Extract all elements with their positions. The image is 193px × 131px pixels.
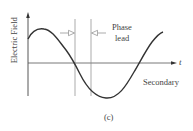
secondary-waveform xyxy=(28,29,163,98)
annotation-lead: lead xyxy=(115,34,129,43)
phase-arrow-left-icon xyxy=(69,30,75,35)
x-axis-arrow-icon xyxy=(171,61,177,65)
y-axis-label: Electric Field xyxy=(10,10,19,70)
annotation-phase: Phase xyxy=(112,23,132,32)
phase-arrow-right-icon xyxy=(92,30,98,35)
y-axis-arrow-icon xyxy=(26,12,30,18)
x-axis-label: t xyxy=(179,58,182,67)
figure-caption: (c) xyxy=(104,113,113,122)
curve-label: Secondary xyxy=(143,78,179,87)
phase-lead-diagram xyxy=(0,0,193,131)
